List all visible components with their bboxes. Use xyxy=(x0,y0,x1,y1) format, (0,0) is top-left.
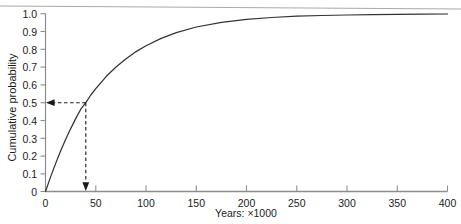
y-axis-title: Cumulative probability xyxy=(7,33,18,183)
figure-cumulative-probability-chart: 1.0 0.9 0.8 0.7 0.6 0.5 0.4 0.3 0.2 0.1 … xyxy=(0,0,461,224)
x-axis-title: Years: ×1000 xyxy=(215,208,277,219)
y-axis-ticks xyxy=(41,14,46,192)
cdf-curve xyxy=(46,14,448,192)
median-annotation xyxy=(46,99,89,191)
x-tick-label-300: 300 xyxy=(338,198,356,209)
y-tick-label-1-0: 1.0 xyxy=(12,9,37,20)
x-tick-label-100: 100 xyxy=(137,198,155,209)
x-tick-label-0: 0 xyxy=(43,198,49,209)
x-tick-label-400: 400 xyxy=(439,198,457,209)
median-left-arrowhead xyxy=(46,99,55,106)
plot-area xyxy=(0,0,461,224)
x-tick-label-150: 150 xyxy=(188,198,206,209)
x-axis-ticks xyxy=(46,186,448,192)
x-tick-label-50: 50 xyxy=(90,198,102,209)
x-axis xyxy=(46,186,448,192)
x-tick-label-350: 350 xyxy=(389,198,407,209)
median-down-arrowhead xyxy=(82,182,89,191)
x-tick-label-250: 250 xyxy=(288,198,306,209)
top-rule-line xyxy=(0,6,461,9)
y-tick-label-0: 0 xyxy=(12,186,37,197)
y-axis xyxy=(41,14,46,192)
